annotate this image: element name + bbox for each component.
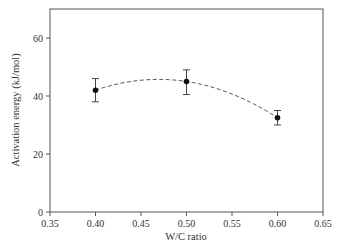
y-tick-label: 20: [33, 149, 43, 160]
data-point: [183, 70, 190, 95]
data-point: [274, 111, 281, 126]
plot-frame: [50, 9, 323, 212]
y-axis-title: Activation energy (kJ/mol): [10, 53, 22, 167]
x-tick-label: 0.60: [269, 218, 287, 229]
x-tick-label: 0.40: [87, 218, 105, 229]
x-tick-label: 0.65: [314, 218, 332, 229]
data-points: [92, 70, 281, 125]
y-tick-label: 60: [33, 33, 43, 44]
y-tick-label: 0: [38, 207, 43, 218]
marker-dot: [93, 87, 99, 93]
marker-dot: [184, 79, 190, 85]
x-axis-title: W/C ratio: [165, 231, 207, 242]
x-tick-label: 0.50: [178, 218, 196, 229]
y-axis-ticks: 0204060: [33, 33, 50, 218]
x-axis-ticks: 0.350.400.450.500.550.600.65: [41, 212, 332, 229]
x-tick-label: 0.45: [132, 218, 150, 229]
x-tick-label: 0.55: [223, 218, 241, 229]
x-tick-label: 0.35: [41, 218, 59, 229]
marker-dot: [275, 115, 281, 121]
chart: 0204060 0.350.400.450.500.550.600.65 W/C…: [0, 0, 349, 252]
data-point: [92, 79, 99, 102]
y-tick-label: 40: [33, 91, 43, 102]
